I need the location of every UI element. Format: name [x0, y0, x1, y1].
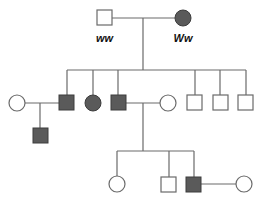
gen2-spouse-right-unaffected-female — [160, 95, 176, 111]
gen3-III-4-affected-male — [186, 177, 201, 192]
genotype-label-mother: Ww — [174, 32, 194, 44]
gen2-II-1-affected-male — [59, 95, 74, 110]
gen3-III-1-affected-male — [33, 128, 48, 143]
gen2-spouse-left-unaffected-female — [9, 95, 25, 111]
gen2-II-2-affected-female — [85, 95, 101, 111]
genotype-label-father: ww — [96, 32, 115, 44]
gen2-II-4-unaffected-male — [187, 95, 202, 110]
gen2-II-6-unaffected-male — [238, 95, 253, 110]
pedigree-chart: ww Ww — [0, 0, 262, 205]
gen1-mother-affected-female — [175, 10, 191, 26]
gen2-II-5-unaffected-male — [213, 95, 228, 110]
gen3-spouse-unaffected-female — [236, 176, 252, 192]
gen2-II-3-affected-male — [111, 95, 126, 110]
gen3-III-3-unaffected-male — [161, 177, 176, 192]
gen1-father-unaffected-male — [97, 10, 112, 25]
gen3-III-2-unaffected-female — [109, 176, 125, 192]
